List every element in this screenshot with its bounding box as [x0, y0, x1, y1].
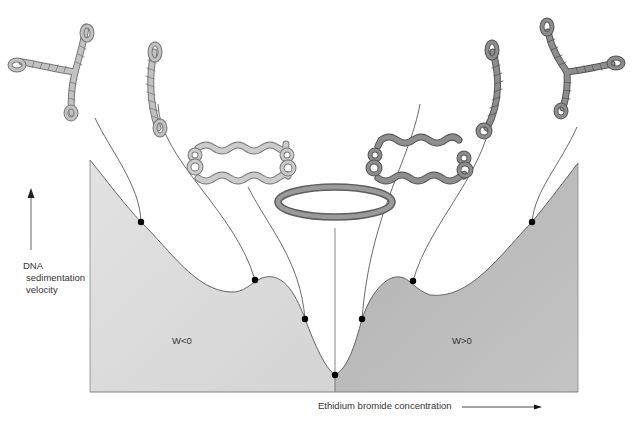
y-axis-label-line-2: sedimentation [23, 272, 85, 284]
region-negative-supercoil [90, 160, 335, 392]
y-axis-label-line-3: velocity [23, 284, 85, 296]
y-axis-label-line-1: DNA [23, 260, 85, 272]
branched-supercoil-positive-icon [542, 20, 623, 117]
region-label-positive: W>0 [452, 335, 472, 347]
point-5 [359, 316, 365, 322]
relaxed-circle-icon [278, 187, 392, 217]
x-axis-label: Ethidium bromide concentration [318, 400, 452, 412]
plectonemic-supercoil-positive-icon [478, 42, 503, 137]
y-axis-arrow [28, 188, 35, 250]
point-6 [410, 278, 416, 284]
x-axis-arrow [462, 405, 542, 410]
y-axis-label: DNA sedimentation velocity [23, 260, 85, 296]
point-7 [529, 219, 535, 225]
partially-relaxed-circle-positive-icon [368, 137, 471, 181]
point-1 [138, 219, 144, 225]
point-4 [332, 372, 338, 378]
diagram-canvas: DNA sedimentation velocity Ethidium brom… [0, 0, 640, 421]
region-label-negative: W<0 [172, 335, 192, 347]
branched-supercoil-negative-icon [10, 26, 92, 119]
partially-relaxed-circle-negative-icon [189, 144, 294, 181]
point-2 [252, 277, 258, 283]
plectonemic-supercoil-negative-icon [146, 44, 165, 135]
point-3 [302, 316, 308, 322]
